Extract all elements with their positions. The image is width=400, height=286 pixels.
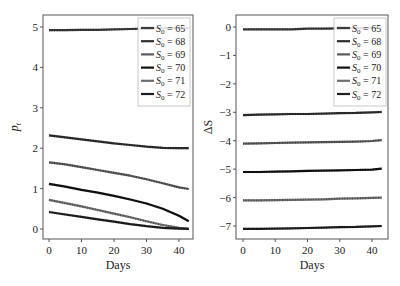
x-axis-label: Days — [106, 258, 131, 272]
x-tick-label: 40 — [367, 244, 379, 256]
y-axis-label: ΔS — [201, 120, 215, 134]
x-tick-label: 40 — [174, 244, 186, 256]
y-tick-label: −1 — [219, 49, 231, 61]
y-tick-label: −3 — [219, 106, 231, 118]
legend: S0 = 65S0 = 68S0 = 69S0 = 70S0 = 71S0 = … — [138, 18, 190, 106]
y-tick-label: 4 — [33, 61, 39, 73]
y-tick-label: 1 — [33, 183, 39, 195]
y-tick-label: 3 — [33, 102, 39, 114]
x-tick-label: 10 — [270, 244, 282, 256]
x-tick-label: 10 — [76, 244, 88, 256]
legend: S0 = 65S0 = 68S0 = 69S0 = 70S0 = 71S0 = … — [334, 18, 386, 106]
y-tick-label: −7 — [219, 220, 231, 232]
y-tick-label: −2 — [219, 78, 231, 90]
right-panel-delta-s: 0−1−2−3−4−5−6−7010203040DaysΔSS0 = 65S0 … — [201, 15, 388, 272]
x-tick-label: 20 — [302, 244, 314, 256]
x-tick-label: 0 — [46, 244, 52, 256]
y-tick-label: 2 — [33, 142, 39, 154]
y-tick-label: 0 — [33, 223, 39, 235]
y-tick-label: −6 — [219, 192, 231, 204]
y-tick-label: −4 — [219, 135, 231, 147]
y-axis-label: pt — [7, 122, 23, 132]
y-tick-label: 0 — [226, 21, 232, 33]
x-axis-label: Days — [300, 258, 325, 272]
x-tick-label: 0 — [240, 244, 246, 256]
left-panel-p-t: 012345010203040DaysptS0 = 65S0 = 68S0 = … — [7, 15, 193, 272]
x-tick-label: 20 — [109, 244, 121, 256]
figure: 012345010203040DaysptS0 = 65S0 = 68S0 = … — [0, 0, 400, 286]
x-tick-label: 30 — [141, 244, 153, 256]
y-tick-label: −5 — [219, 163, 231, 175]
x-tick-label: 30 — [334, 244, 346, 256]
y-tick-label: 5 — [33, 21, 39, 33]
